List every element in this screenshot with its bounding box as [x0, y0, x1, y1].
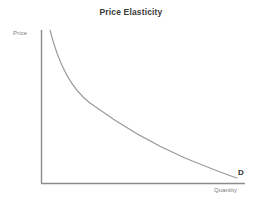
demand-curve — [50, 30, 237, 178]
demand-curve-label: D — [238, 168, 244, 177]
price-elasticity-chart: Price Elasticity Price Quantity D — [0, 0, 262, 206]
y-axis-label: Price — [13, 30, 27, 36]
chart-plot-area — [0, 0, 262, 206]
x-axis-label: Quantity — [214, 187, 237, 193]
